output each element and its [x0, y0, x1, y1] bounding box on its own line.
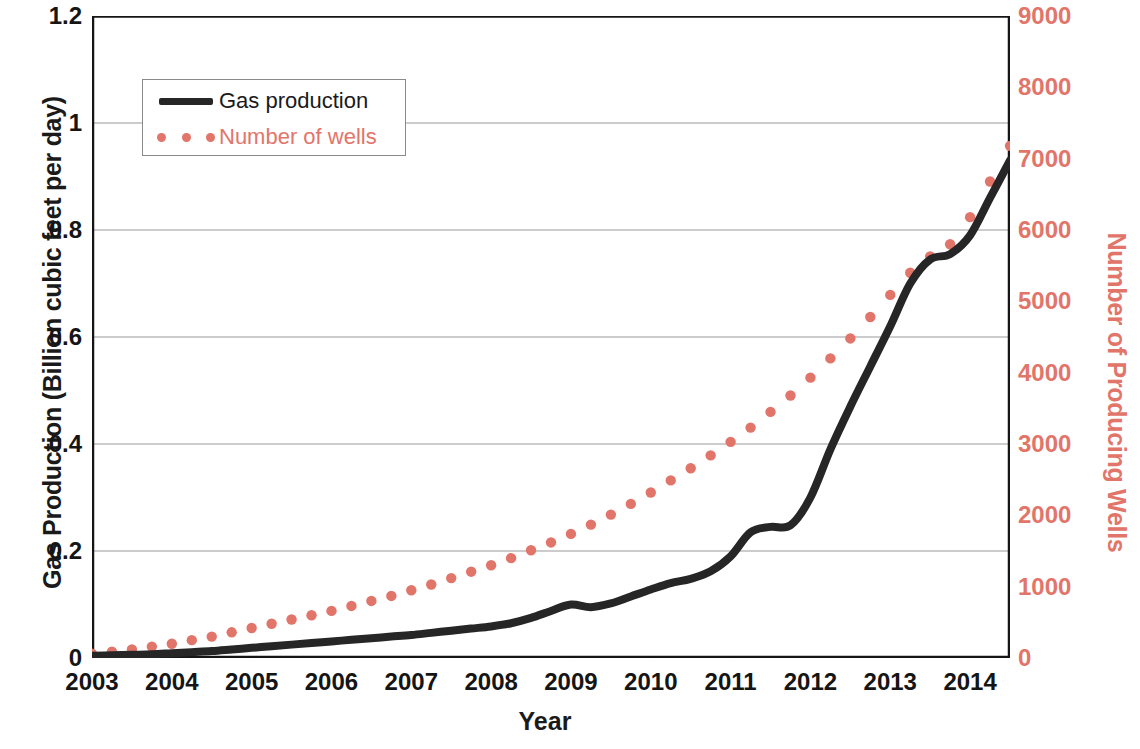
- data-point-wells: [246, 623, 256, 633]
- y-axis-left-tick-label: 1.2: [12, 2, 82, 30]
- data-point-wells: [965, 212, 975, 222]
- data-point-wells: [326, 606, 336, 616]
- x-axis-tick-label: 2010: [624, 668, 677, 696]
- y-axis-left-tick-label: 0.2: [12, 537, 82, 565]
- x-axis-tick-label: 2014: [943, 668, 996, 696]
- data-point-wells: [187, 635, 197, 645]
- y-axis-right-tick-label: 2000: [1018, 501, 1118, 529]
- y-axis-left-tick-label: 1: [12, 109, 82, 137]
- data-point-wells: [446, 573, 456, 583]
- legend-label-number-of-wells: Number of wells: [219, 124, 377, 150]
- data-point-wells: [466, 566, 476, 576]
- x-axis-tick-label: 2004: [145, 668, 198, 696]
- data-point-wells: [526, 545, 536, 555]
- dotted-line-icon: [153, 127, 219, 147]
- data-point-wells: [386, 591, 396, 601]
- y-axis-right-tick-label: 5000: [1018, 287, 1118, 315]
- y-axis-left-tick-label: 0.8: [12, 216, 82, 244]
- y-axis-right-tick-label: 4000: [1018, 359, 1118, 387]
- data-point-wells: [506, 553, 516, 563]
- data-point-wells: [286, 614, 296, 624]
- data-point-wells: [785, 390, 795, 400]
- x-axis-tick-label: 2008: [464, 668, 517, 696]
- data-point-wells: [865, 312, 875, 322]
- data-point-wells: [845, 333, 855, 343]
- data-point-wells: [885, 290, 895, 300]
- data-point-wells: [227, 627, 237, 637]
- data-point-wells: [725, 437, 735, 447]
- y-axis-right-tick-label: 9000: [1018, 2, 1118, 30]
- legend-item-number-of-wells: Number of wells: [143, 118, 405, 156]
- data-point-wells: [1005, 141, 1010, 151]
- x-axis-tick-label: 2012: [784, 668, 837, 696]
- chart-figure: Gas Production (Billion cubic feet per d…: [0, 0, 1140, 749]
- x-axis-tick-label: 2003: [65, 668, 118, 696]
- data-point-wells: [805, 372, 815, 382]
- data-point-wells: [765, 407, 775, 417]
- data-point-wells: [825, 353, 835, 363]
- x-axis-tick-label: 2009: [544, 668, 597, 696]
- y-axis-right-tick-label: 7000: [1018, 145, 1118, 173]
- y-axis-left-tick-label: 0.4: [12, 430, 82, 458]
- data-point-wells: [167, 639, 177, 649]
- data-point-wells: [705, 450, 715, 460]
- data-point-wells: [426, 579, 436, 589]
- data-point-wells: [486, 560, 496, 570]
- x-axis-title: Year: [0, 707, 1090, 736]
- y-axis-right-tick-label: 6000: [1018, 216, 1118, 244]
- y-axis-right-tick-label: 3000: [1018, 430, 1118, 458]
- data-point-wells: [606, 509, 616, 519]
- data-point-wells: [686, 463, 696, 473]
- data-point-wells: [566, 529, 576, 539]
- legend-item-gas-production: Gas production: [143, 82, 405, 120]
- data-point-wells: [666, 475, 676, 485]
- x-axis-tick-label: 2005: [225, 668, 278, 696]
- data-point-wells: [346, 601, 356, 611]
- y-axis-left-ticks: 00.20.40.60.811.2: [0, 0, 82, 749]
- data-point-wells: [306, 610, 316, 620]
- y-axis-right-ticks: 0100020003000400050006000700080009000: [1018, 0, 1128, 749]
- y-axis-right-tick-label: 0: [1018, 644, 1118, 672]
- data-point-wells: [406, 585, 416, 595]
- y-axis-right-tick-label: 1000: [1018, 573, 1118, 601]
- series-number-of-wells: [92, 141, 1010, 658]
- y-axis-left-tick-label: 0.6: [12, 323, 82, 351]
- x-axis-tick-label: 2013: [864, 668, 917, 696]
- data-point-wells: [586, 519, 596, 529]
- data-point-wells: [745, 422, 755, 432]
- data-point-wells: [546, 537, 556, 547]
- y-axis-right-tick-label: 8000: [1018, 73, 1118, 101]
- chart-legend: Gas production Number of wells: [142, 79, 406, 156]
- data-point-wells: [266, 619, 276, 629]
- data-point-wells: [207, 631, 217, 641]
- data-point-wells: [626, 499, 636, 509]
- x-axis-tick-label: 2007: [385, 668, 438, 696]
- x-axis-tick-label: 2011: [705, 668, 757, 696]
- series-gas-production: [92, 160, 1010, 655]
- data-point-wells: [646, 487, 656, 497]
- line-gas-production: [92, 160, 1010, 655]
- x-axis-tick-label: 2006: [305, 668, 358, 696]
- data-point-wells: [366, 596, 376, 606]
- legend-label-gas-production: Gas production: [219, 88, 368, 114]
- solid-line-icon: [153, 91, 219, 111]
